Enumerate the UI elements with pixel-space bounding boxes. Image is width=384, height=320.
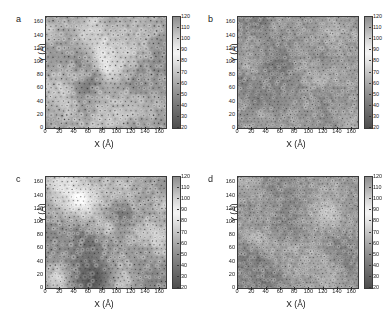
- panel-c-colorbar: 1201101009080706050403020: [172, 176, 192, 287]
- colorbar-tick-label: 50: [373, 251, 384, 257]
- panel-d: d Y (Å) 020406080100120140160 0204060801…: [192, 160, 384, 320]
- y-tick-label: 100: [21, 58, 43, 64]
- panel-b-plot-area: [237, 16, 359, 129]
- y-tick-label: 160: [213, 18, 235, 24]
- y-tick-label: 120: [213, 205, 235, 211]
- panel-a: a Y (Å) 020406080100120140160 0204060801…: [0, 0, 192, 160]
- colorbar-tick-mark: [177, 243, 179, 244]
- y-tick-label: 80: [213, 71, 235, 77]
- x-tick-label: 160: [342, 128, 360, 135]
- y-tick-label: 100: [21, 218, 43, 224]
- panel-b-colorbar: 1201101009080706050403020: [364, 16, 384, 127]
- colorbar-tick-mark: [369, 254, 371, 255]
- panel-a-plot-area: [45, 16, 167, 129]
- panel-b-xticks: 020406080100120140160: [237, 128, 357, 138]
- colorbar-tick-mark: [177, 254, 179, 255]
- y-tick-label: 120: [213, 45, 235, 51]
- colorbar-tick-label: 120: [373, 13, 384, 19]
- colorbar-tick-mark: [177, 94, 179, 95]
- colorbar-tick-label: 50: [373, 91, 384, 97]
- colorbar-tick-label: 80: [373, 217, 384, 223]
- colorbar-tick-mark: [369, 38, 371, 39]
- y-tick-label: 40: [213, 98, 235, 104]
- panel-b-yticks: 020406080100120140160: [211, 16, 235, 127]
- y-tick-label: 160: [21, 18, 43, 24]
- y-tick-label: 60: [213, 244, 235, 250]
- figure-root: a Y (Å) 020406080100120140160 0204060801…: [0, 0, 384, 320]
- colorbar-tick-mark: [177, 49, 179, 50]
- panel-a-xticks: 020406080100120140160: [45, 128, 165, 138]
- panel-d-plot-area: [237, 176, 359, 289]
- colorbar-tick-label: 60: [373, 80, 384, 86]
- panel-c-heatmap: [46, 177, 166, 288]
- colorbar-tick-mark: [177, 209, 179, 210]
- colorbar-tick-label: 20: [373, 124, 384, 130]
- colorbar-tick-mark: [369, 16, 371, 17]
- colorbar-tick-mark: [369, 49, 371, 50]
- panel-a-yticks: 020406080100120140160: [19, 16, 43, 127]
- colorbar-tick-mark: [369, 276, 371, 277]
- colorbar-tick-label: 110: [373, 24, 384, 30]
- colorbar-tick-mark: [177, 198, 179, 199]
- panel-c-xlabel: X (Å): [44, 299, 164, 309]
- colorbar-tick-mark: [177, 72, 179, 73]
- colorbar-tick-mark: [369, 116, 371, 117]
- colorbar-tick-label: 100: [373, 195, 384, 201]
- colorbar-tick-label: 60: [373, 240, 384, 246]
- colorbar-tick-mark: [177, 83, 179, 84]
- y-tick-label: 120: [21, 205, 43, 211]
- colorbar-tick-mark: [369, 127, 371, 128]
- y-tick-label: 40: [213, 258, 235, 264]
- colorbar-tick-label: 70: [373, 69, 384, 75]
- y-tick-label: 60: [21, 84, 43, 90]
- y-tick-label: 140: [21, 32, 43, 38]
- panel-b-xlabel: X (Å): [236, 139, 356, 149]
- y-tick-label: 100: [213, 218, 235, 224]
- panel-c-plot-area: [45, 176, 167, 289]
- y-tick-label: 20: [21, 111, 43, 117]
- colorbar-tick-mark: [369, 287, 371, 288]
- y-tick-label: 20: [21, 271, 43, 277]
- panel-b-heatmap: [238, 17, 358, 128]
- colorbar-tick-mark: [177, 105, 179, 106]
- colorbar-tick-mark: [177, 232, 179, 233]
- colorbar-tick-mark: [369, 220, 371, 221]
- y-tick-label: 160: [213, 178, 235, 184]
- colorbar-tick-label: 80: [373, 57, 384, 63]
- y-tick-label: 80: [213, 231, 235, 237]
- colorbar-tick-mark: [177, 265, 179, 266]
- colorbar-tick-mark: [369, 60, 371, 61]
- panel-d-xlabel: X (Å): [236, 299, 356, 309]
- colorbar-tick-mark: [177, 276, 179, 277]
- colorbar-tick-mark: [369, 176, 371, 177]
- colorbar-tick-label: 90: [373, 206, 384, 212]
- colorbar-tick-mark: [369, 72, 371, 73]
- y-tick-label: 60: [213, 84, 235, 90]
- y-tick-label: 160: [21, 178, 43, 184]
- y-tick-label: 20: [213, 271, 235, 277]
- colorbar-tick-mark: [177, 176, 179, 177]
- panel-a-xlabel: X (Å): [44, 139, 164, 149]
- colorbar-tick-mark: [369, 198, 371, 199]
- colorbar-tick-mark: [177, 127, 179, 128]
- colorbar-tick-label: 120: [373, 173, 384, 179]
- y-tick-label: 140: [21, 192, 43, 198]
- colorbar-tick-label: 40: [373, 102, 384, 108]
- y-tick-label: 80: [21, 231, 43, 237]
- x-tick-label: 160: [150, 288, 168, 295]
- y-tick-label: 140: [213, 32, 235, 38]
- y-tick-label: 40: [21, 98, 43, 104]
- colorbar-tick-mark: [369, 209, 371, 210]
- panel-a-colorbar-gradient: [172, 16, 181, 129]
- panel-d-heatmap: [238, 177, 358, 288]
- x-tick-label: 160: [150, 128, 168, 135]
- colorbar-tick-mark: [369, 265, 371, 266]
- colorbar-tick-mark: [177, 38, 179, 39]
- panel-a-colorbar: 1201101009080706050403020: [172, 16, 192, 127]
- panel-d-yticks: 020406080100120140160: [211, 176, 235, 287]
- panel-d-colorbar: 1201101009080706050403020: [364, 176, 384, 287]
- y-tick-label: 120: [21, 45, 43, 51]
- colorbar-tick-mark: [369, 83, 371, 84]
- colorbar-tick-mark: [369, 105, 371, 106]
- colorbar-tick-mark: [177, 220, 179, 221]
